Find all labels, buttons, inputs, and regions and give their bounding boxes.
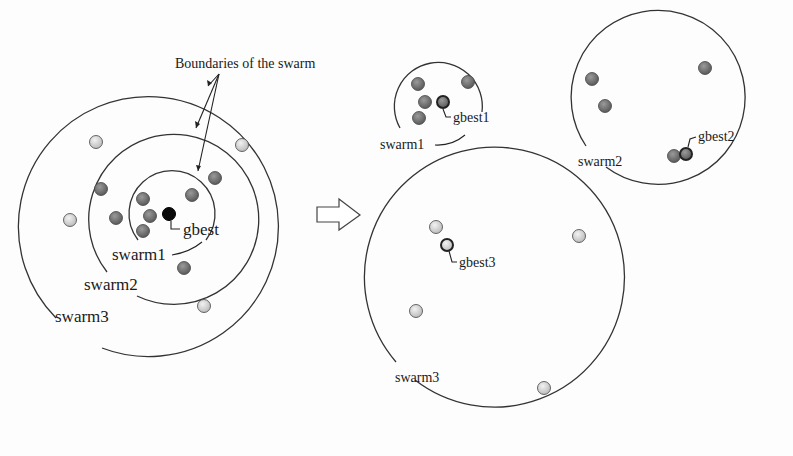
pso-multi-swarm-diagram: Boundaries of the swarm gbest swarm1 swa… [0, 0, 793, 456]
boundary-annotation-arrows [195, 74, 219, 171]
swarm1-leader-line [172, 242, 202, 255]
swarm1-right-particle [412, 78, 425, 91]
swarm1-label: swarm1 [112, 245, 166, 264]
gbest2-particle [680, 148, 692, 160]
swarm3-right-particle [430, 221, 443, 234]
swarm3-particle [64, 214, 77, 227]
swarm2-right-particle [699, 62, 712, 75]
swarm1-particle [137, 225, 150, 238]
right-separated-swarms: gbest1 swarm1 gbest2 swarm2 gbest3 swarm… [364, 10, 745, 407]
gbest3-particle [441, 239, 453, 251]
swarm1-particle [137, 193, 150, 206]
swarm2-right-particle [668, 150, 681, 163]
gbest3-label: gbest3 [459, 255, 496, 270]
swarm1-right-particle [462, 76, 475, 89]
gbest-particle [163, 208, 176, 221]
swarm3-particle [236, 139, 249, 152]
swarm3-right-label: swarm3 [395, 370, 439, 385]
boundaries-annotation: Boundaries of the swarm [175, 56, 315, 71]
transition-arrow-icon [317, 199, 360, 230]
swarm3-right-boundary [364, 147, 624, 407]
swarm2-particle [95, 183, 108, 196]
gbest-leader-line [171, 221, 180, 229]
swarm1-right-label: swarm1 [380, 137, 424, 152]
gbest1-particle [437, 96, 449, 108]
gbest2-label: gbest2 [698, 129, 735, 144]
swarm2-particle [209, 172, 222, 185]
gbest3-leader [449, 251, 457, 262]
swarm1-particle [144, 210, 157, 223]
swarm2-label: swarm2 [84, 275, 138, 294]
swarm3-particle [90, 136, 103, 149]
swarm3-right-particle [573, 230, 586, 243]
swarm2-particle [178, 262, 191, 275]
swarm3-right-particle [538, 382, 551, 395]
swarm2-right-particle [599, 100, 612, 113]
diagram-svg: Boundaries of the swarm gbest swarm1 swa… [0, 0, 793, 456]
gbest2-leader [688, 137, 696, 147]
gbest1-leader [443, 109, 451, 117]
gbest1-label: gbest1 [453, 110, 490, 125]
swarm3-right-particle [410, 305, 423, 318]
swarm1-right-particle [419, 96, 432, 109]
swarm2-right-label: swarm2 [578, 154, 622, 169]
swarm1-right-particle [413, 112, 426, 125]
swarm1-particle [186, 189, 199, 202]
left-nested-swarms: Boundaries of the swarm gbest swarm1 swa… [18, 56, 315, 357]
gbest-label: gbest [183, 220, 219, 239]
swarm2-right-particle [586, 73, 599, 86]
swarm1-right-leader [435, 135, 465, 145]
swarm2-particle [110, 212, 123, 225]
swarm3-label: swarm3 [55, 307, 109, 326]
swarm3-particle [198, 300, 211, 313]
